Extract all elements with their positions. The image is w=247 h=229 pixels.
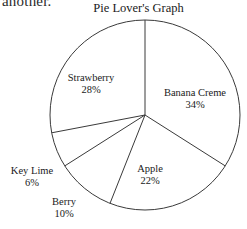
pie-slice-label-apple-value: 22%	[123, 175, 177, 187]
pie-slice-label-key-lime-name: Key Lime	[1, 165, 63, 177]
pie-slice-label-apple: Apple 22%	[123, 163, 177, 187]
pie-slice-label-berry: Berry 10%	[39, 196, 89, 220]
pie-slice-label-key-lime: Key Lime 6%	[1, 165, 63, 189]
pie-slice-label-banana-creme-name: Banana Creme	[148, 87, 242, 99]
pie-slice-label-berry-value: 10%	[39, 208, 89, 220]
pie-slice-label-strawberry-value: 28%	[52, 84, 130, 96]
pie-slice-label-strawberry: Strawberry 28%	[52, 72, 130, 96]
pie-slice-label-strawberry-name: Strawberry	[52, 72, 130, 84]
pie-slice-label-berry-name: Berry	[39, 196, 89, 208]
pie-chart-graphic	[0, 0, 247, 229]
pie-slice-label-key-lime-value: 6%	[1, 177, 63, 189]
pie-chart-figure: another. Pie Lover's Graph Strawberry 28…	[0, 0, 247, 229]
pie-slice-label-banana-creme: Banana Creme 34%	[148, 87, 242, 111]
pie-slice-label-banana-creme-value: 34%	[148, 99, 242, 111]
pie-slice-label-apple-name: Apple	[123, 163, 177, 175]
